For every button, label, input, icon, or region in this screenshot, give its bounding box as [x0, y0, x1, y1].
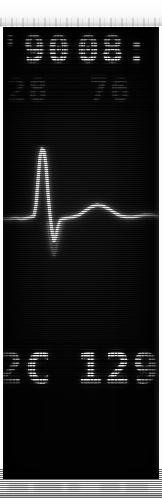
bottom-readout-row: 2C 129 — [3, 342, 159, 394]
monitor-photo: '90 08: 28 76 2C 129 — [0, 0, 162, 498]
ecg-waveform — [3, 145, 159, 295]
crt-screen: '90 08: 28 76 2C 129 — [3, 27, 159, 479]
bottom-left-value: 2C — [3, 342, 53, 394]
bottom-blurred-strip — [0, 468, 162, 498]
top-readout-row: '90 08: — [3, 29, 159, 71]
second-left-value: 28 — [7, 71, 50, 109]
margin-speckle-texture — [0, 18, 162, 27]
bottom-rule — [0, 494, 162, 497]
second-readout-row: 28 76 — [3, 71, 159, 109]
bottom-strip-blob — [100, 483, 120, 492]
bottom-strip-blob — [34, 483, 62, 492]
ecg-s-wave-tail — [48, 221, 62, 255]
bottom-strip-blob — [8, 483, 28, 492]
bottom-strip-blob — [126, 483, 148, 492]
bottom-strip-blob — [68, 483, 80, 492]
top-left-value: '90 — [3, 29, 72, 71]
top-right-value: 08: — [77, 29, 150, 71]
ecg-trace-line — [3, 149, 159, 241]
bottom-right-value: 129 — [77, 342, 159, 394]
second-right-value: 76 — [89, 71, 132, 109]
